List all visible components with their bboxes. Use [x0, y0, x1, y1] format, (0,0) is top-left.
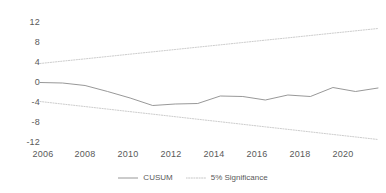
legend-label: CUSUM	[143, 174, 172, 182]
chart-legend: CUSUM 5% Significance	[0, 174, 386, 182]
legend-item-cusum[interactable]: CUSUM	[118, 174, 172, 182]
significance-upper-band	[40, 29, 378, 64]
cusum-chart: 12 8 4 0 -4 -8 -12 2006 2008 2010 2012 2…	[0, 0, 386, 193]
significance-lower-band	[40, 102, 378, 140]
legend-line-solid-icon	[118, 175, 138, 181]
plot-area	[0, 0, 386, 193]
legend-item-significance[interactable]: 5% Significance	[186, 174, 268, 182]
legend-label: 5% Significance	[211, 174, 268, 182]
legend-line-dotted-icon	[186, 175, 206, 181]
cusum-series-line	[40, 83, 378, 106]
